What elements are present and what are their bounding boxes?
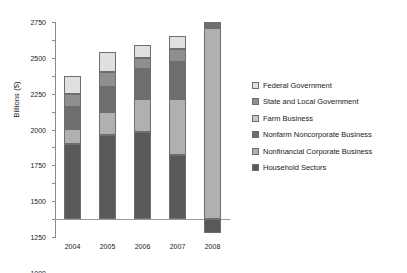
y-axis-title: Billions ($) [12, 55, 21, 145]
legend-item[interactable]: Nonfinancial Corporate Business [252, 143, 372, 160]
bar-segment[interactable] [64, 76, 81, 94]
legend-item-label: Nonfinancial Corporate Business [263, 147, 372, 156]
legend-item-label: Federal Government [263, 81, 332, 90]
y-tick-mark: 2250 [52, 58, 56, 59]
bar-segment[interactable] [169, 36, 186, 49]
legend-swatch-icon [252, 82, 259, 89]
bar-segment[interactable] [169, 99, 186, 155]
y-tick-label: 1250 [30, 234, 46, 241]
y-tick-mark: -250 [52, 237, 56, 238]
legend-swatch-icon [252, 164, 259, 171]
bar-column[interactable] [204, 22, 221, 237]
y-tick-label: 2500 [30, 54, 46, 61]
bar-segment[interactable] [64, 94, 81, 106]
bar-column[interactable] [64, 22, 81, 237]
y-tick-label: 1000 [30, 269, 46, 273]
bar-segment[interactable] [134, 132, 151, 219]
legend-item[interactable]: Federal Government [252, 77, 372, 94]
bar-segment[interactable] [99, 88, 116, 112]
legend-item[interactable]: State and Local Government [252, 94, 372, 111]
y-tick-mark: 250 [52, 201, 56, 202]
bar-segment[interactable] [134, 45, 151, 58]
y-tick-label: 2000 [30, 126, 46, 133]
bar-segment[interactable] [204, 24, 221, 26]
legend-item[interactable]: Household Sectors [252, 160, 372, 177]
x-axis-label: 2007 [158, 243, 198, 250]
bar-segment[interactable] [64, 129, 81, 144]
y-tick-mark: 1000 [52, 147, 56, 148]
bar-segment[interactable] [204, 22, 221, 24]
legend-swatch-icon [252, 115, 259, 122]
stacked-bar-chart: Billions ($) 275025002250200017501500125… [0, 0, 407, 273]
bar-segment[interactable] [204, 28, 221, 219]
legend-item[interactable]: Farm Business [252, 110, 372, 127]
bar-segment[interactable] [99, 135, 116, 219]
plot-area: 2750250022502000175015001250100075050025… [55, 22, 230, 237]
bar-column[interactable] [99, 22, 116, 237]
bar-segment[interactable] [134, 71, 151, 99]
y-tick-mark: 2500 [52, 40, 56, 41]
y-tick-mark: 2000 [52, 76, 56, 77]
y-tick-label: 2750 [30, 19, 46, 26]
bar-segment[interactable] [204, 219, 221, 233]
bar-segment[interactable] [99, 87, 116, 89]
y-tick-mark: 1750 [52, 94, 56, 95]
bar-segment[interactable] [169, 62, 186, 64]
bar-column[interactable] [169, 22, 186, 237]
y-tick-label: 1750 [30, 162, 46, 169]
bar-segment[interactable] [169, 49, 186, 62]
y-tick-label: 1500 [30, 198, 46, 205]
bar-segment[interactable] [99, 112, 116, 135]
legend-item-label: Farm Business [263, 114, 313, 123]
bar-segment[interactable] [134, 69, 151, 71]
y-tick-label: 2250 [30, 90, 46, 97]
bar-segment[interactable] [169, 64, 186, 98]
y-tick-mark: 750 [52, 165, 56, 166]
bar-segment[interactable] [134, 99, 151, 132]
x-axis-label: 2004 [53, 243, 93, 250]
chart-legend: Federal GovernmentState and Local Govern… [252, 77, 372, 176]
x-axis-label: 2006 [123, 243, 163, 250]
y-tick-mark: 2750 [52, 22, 56, 23]
legend-swatch-icon [252, 98, 259, 105]
legend-swatch-icon [252, 131, 259, 138]
y-tick-mark: 1500 [52, 112, 56, 113]
y-tick-mark: 500 [52, 183, 56, 184]
legend-item-label: Nonfarm Noncorporate Business [263, 130, 372, 139]
bar-segment[interactable] [134, 58, 151, 69]
legend-item[interactable]: Nonfarm Noncorporate Business [252, 127, 372, 144]
bar-segment[interactable] [169, 155, 186, 220]
legend-item-label: Household Sectors [263, 163, 326, 172]
x-axis-label: 2005 [88, 243, 128, 250]
legend-item-label: State and Local Government [263, 97, 358, 106]
bar-segment[interactable] [64, 108, 81, 129]
bar-segment[interactable] [99, 72, 116, 87]
y-tick-mark: 1250 [52, 130, 56, 131]
x-axis-label: 2008 [193, 243, 233, 250]
bar-segment[interactable] [64, 107, 81, 109]
legend-swatch-icon [252, 148, 259, 155]
bar-column[interactable] [134, 22, 151, 237]
bar-segment[interactable] [64, 144, 81, 219]
bar-segment[interactable] [99, 52, 116, 72]
